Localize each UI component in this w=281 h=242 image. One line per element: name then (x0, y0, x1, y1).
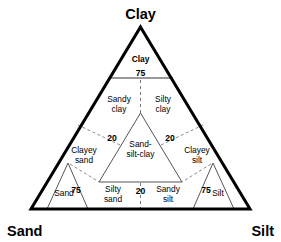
ternary-diagram-svg: Clay Sand Silt Clay Sandy clay Silty cla… (0, 0, 281, 242)
region-label-clayey-sand-line1: Clayey (71, 145, 97, 155)
region-label-clay: Clay (132, 54, 150, 64)
silt-75-tickline (182, 164, 211, 182)
sand-triangle-left-edge (47, 163, 68, 209)
region-label-sandy-clay-line1: Sandy (107, 94, 132, 104)
region-label-silty-sand-line1: Silty (105, 184, 122, 194)
region-label-silty-sand-line2: sand (104, 194, 123, 204)
region-label-sand-silt-clay-line1: Sand- (129, 139, 152, 149)
soil-texture-triangle-figure: Clay Sand Silt Clay Sandy clay Silty cla… (0, 0, 281, 242)
axis-value-sand-75: 75 (71, 185, 81, 195)
sand-75-tickline (70, 164, 99, 182)
corner-label-clay: Clay (125, 6, 156, 22)
corner-label-sand: Sand (7, 223, 42, 239)
region-label-clayey-sand-line2: sand (75, 155, 94, 165)
axis-value-clay-75: 75 (136, 68, 146, 78)
corner-label-silt: Silt (251, 223, 274, 239)
axis-value-right-20: 20 (165, 133, 175, 143)
region-label-sand-silt-clay-line2: silt-clay (127, 149, 156, 159)
region-label-sandy-silt-line1: Sandy (156, 184, 181, 194)
region-label-clayey-silt-line2: silt (192, 155, 203, 165)
region-label-silty-clay-line1: Silty (155, 94, 172, 104)
region-label-silt: Silt (212, 188, 224, 198)
silt-triangle-right-edge (213, 163, 234, 209)
axis-value-silt-75: 75 (201, 185, 211, 195)
axis-value-bottom-20: 20 (136, 186, 146, 196)
axis-value-left-20: 20 (107, 133, 117, 143)
region-label-silty-clay-line2: clay (156, 104, 172, 114)
region-label-sandy-clay-line2: clay (112, 104, 128, 114)
region-label-sandy-silt-line2: silt (163, 194, 174, 204)
region-label-clayey-silt-line1: Clayey (184, 145, 210, 155)
